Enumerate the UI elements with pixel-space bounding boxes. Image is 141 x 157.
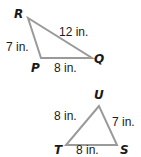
side-label-us: 7 in. — [112, 115, 135, 129]
vertex-label-t: T — [54, 143, 63, 157]
side-label-ts: 8 in. — [76, 143, 99, 157]
vertex-label-q: Q — [94, 52, 104, 66]
similar-triangles-diagram: R P Q 12 in. 7 in. 8 in. U T S 8 in. 7 i… — [0, 0, 141, 157]
side-label-pq: 8 in. — [54, 61, 77, 75]
side-label-rq: 12 in. — [59, 25, 88, 39]
vertex-label-s: S — [120, 143, 129, 157]
vertex-label-u: U — [94, 88, 104, 102]
side-label-tu: 8 in. — [54, 109, 77, 123]
vertex-label-r: R — [14, 7, 23, 21]
side-label-rp: 7 in. — [6, 40, 29, 54]
vertex-label-p: P — [31, 61, 40, 75]
